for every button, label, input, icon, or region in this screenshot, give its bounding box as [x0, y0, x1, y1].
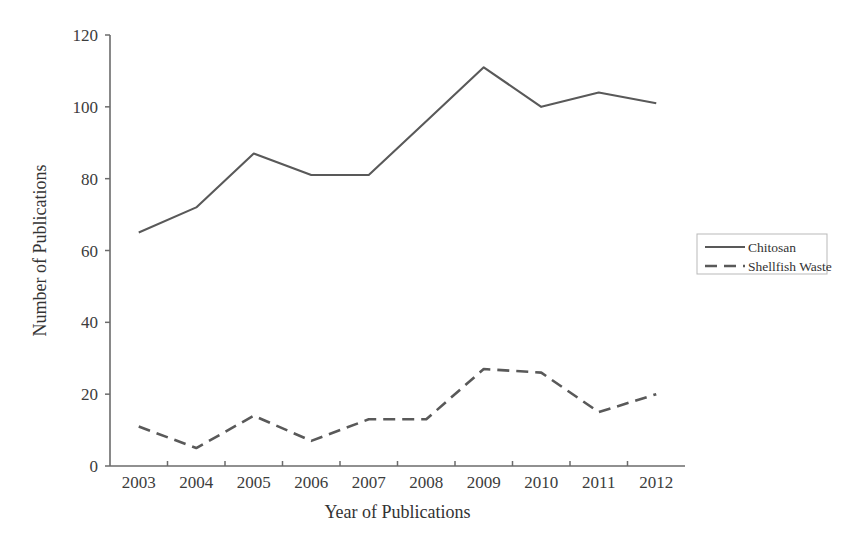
x-axis-tick-label: 2010 [524, 473, 558, 492]
x-axis-tick-label: 2005 [237, 473, 271, 492]
x-axis-tick-label: 2007 [352, 473, 387, 492]
chart-figure: 020406080100120 200320042005200620072008… [0, 0, 858, 547]
y-axis-tick-label: 100 [73, 98, 99, 117]
y-axis-tick-label: 80 [81, 170, 98, 189]
y-axis-tick-label: 40 [81, 313, 98, 332]
y-axis-tick-label: 0 [90, 457, 99, 476]
x-axis-tick-label: 2009 [467, 473, 501, 492]
line-chart-svg: 020406080100120 200320042005200620072008… [0, 0, 858, 547]
legend-label: Chitosan [748, 240, 796, 255]
y-axis-tick-label: 60 [81, 242, 98, 261]
x-axis-tick-label: 2008 [409, 473, 443, 492]
x-axis-title: Year of Publications [324, 502, 470, 522]
y-axis-tick-label: 20 [81, 385, 98, 404]
y-axis-tick-label: 120 [73, 26, 99, 45]
y-axis-title: Number of Publications [30, 165, 50, 337]
x-axis-tick-label: 2003 [122, 473, 156, 492]
x-axis-tick-label: 2011 [582, 473, 615, 492]
x-axis-tick-label: 2004 [179, 473, 214, 492]
x-axis-tick-label: 2006 [294, 473, 328, 492]
legend-label: Shellfish Waste [748, 259, 832, 274]
x-axis-tick-label: 2012 [639, 473, 673, 492]
